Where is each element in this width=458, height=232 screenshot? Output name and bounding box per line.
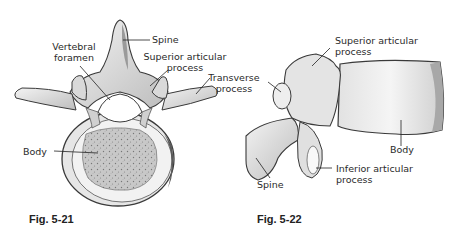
label-superior-articular-lateral-line2: process — [335, 46, 372, 57]
label-inferior-articular-line2: process — [336, 174, 373, 185]
label-body-lateral: Body — [390, 144, 414, 155]
label-vertebral-foramen-line2: foramen — [44, 52, 104, 63]
label-transverse-process-line2: process — [206, 83, 262, 94]
figure-caption-5-21: Fig. 5-21 — [29, 213, 74, 225]
label-spine-lateral: Spine — [257, 179, 284, 190]
label-transverse-process-line1: Transverse — [206, 72, 262, 83]
label-inferior-articular-line1: Inferior articular — [336, 163, 413, 174]
label-vertebral-foramen-line1: Vertebral — [44, 41, 104, 52]
label-spine-superior: Spine — [152, 34, 179, 45]
figure-caption-5-22: Fig. 5-22 — [257, 213, 302, 225]
lateral-view-vertebra — [246, 54, 444, 180]
label-body-superior: Body — [23, 146, 47, 157]
label-superior-articular-line1: Superior articular — [140, 51, 230, 62]
label-superior-articular-lateral-line1: Superior articular — [335, 35, 418, 46]
